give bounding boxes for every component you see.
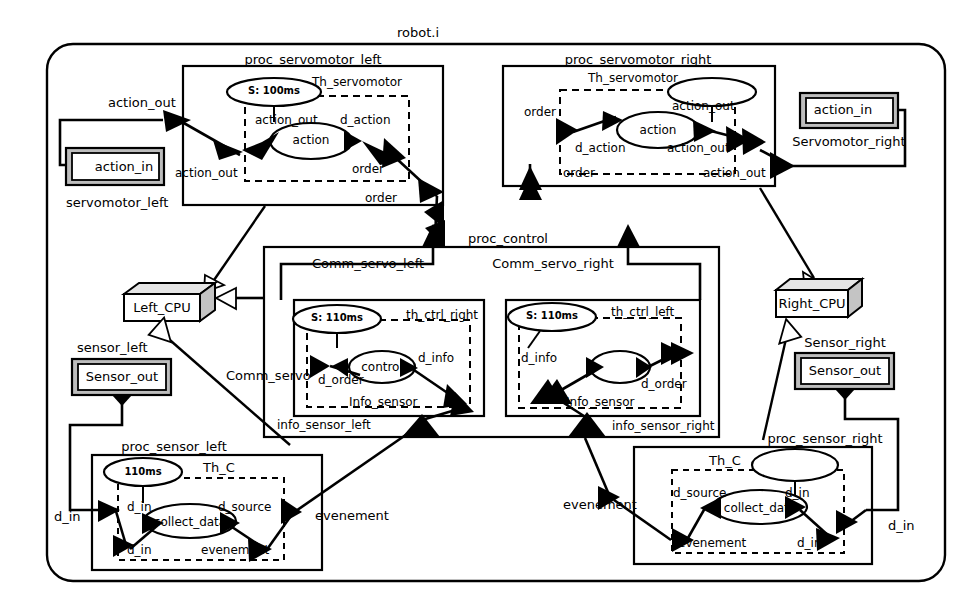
port-info-sensor-left-external: info_sensor_left xyxy=(277,419,371,431)
proc-sensor-right-title: proc_sensor_right xyxy=(767,432,882,445)
th-servomotor-right-label: Th_servomotor xyxy=(588,72,678,84)
port-action-out-inner-left: action_out xyxy=(255,114,318,126)
activity-action-left: action xyxy=(293,134,330,146)
th-c-left-label: Th_C xyxy=(203,461,235,474)
port-action-in-right: action_in xyxy=(814,103,872,116)
port-d-in-external-right: d_in xyxy=(888,519,915,532)
port-d-source-right: d_source xyxy=(673,487,726,499)
port-d-in-bottom-right: d_in xyxy=(797,537,822,549)
activity-collect-data-right: collect_data xyxy=(724,502,796,514)
proc-servomotor-right-title: proc_servomotor_right xyxy=(565,53,712,66)
device-servomotor-right-label: Servomotor_right xyxy=(792,135,905,148)
port-d-in-top-left: d_in xyxy=(127,501,152,513)
port-d-order-left: d_order xyxy=(318,374,364,386)
activity-collect-data-left: collect_data xyxy=(154,516,226,528)
comm-servo-right-label: Comm_servo_right xyxy=(492,257,614,270)
port-action-out-outer-left: action_out xyxy=(175,167,238,179)
timer-servomotor-left: S: 100ms xyxy=(248,86,300,96)
proc-servomotor-left-title: proc_servomotor_left xyxy=(244,53,381,66)
proc-servomotor-left-frame xyxy=(163,66,445,248)
port-d-in-external-left: d_in xyxy=(54,510,81,523)
proc-sensor-left-title: proc_sensor_left xyxy=(121,440,227,453)
timer-sensor-left: 110ms xyxy=(124,467,161,477)
port-evenement-outer-right: evenement xyxy=(563,498,637,511)
link-servo-right-to-right-cpu xyxy=(760,188,824,291)
device-sensor-right-label: Sensor_right xyxy=(804,336,886,349)
th-ctrl-left-label: th_ctrl_left xyxy=(611,306,674,318)
port-order-inner-left: order xyxy=(352,163,384,175)
port-action-in-left: action_in xyxy=(95,160,153,173)
link-left-cpu-comm xyxy=(216,288,264,309)
port-sensor-out-left: Sensor_out xyxy=(86,370,158,383)
th-ctrl-right-label: th_ctrl_right xyxy=(406,309,478,321)
port-order-outer-left: order xyxy=(365,192,397,204)
port-d-info-left: d_info xyxy=(418,352,454,364)
port-d-action-left: d_action xyxy=(340,114,391,126)
port-evenement-inner-left: evenement xyxy=(201,544,269,556)
port-d-source-left: d_source xyxy=(218,501,271,513)
port-evenement-outer-left: evenement xyxy=(315,509,389,522)
device-servomotor-left-label: servomotor_left xyxy=(66,196,168,209)
timer-ctrl-right: S: 110ms xyxy=(526,311,578,321)
port-action-out-mid-right: action_out xyxy=(667,142,730,154)
activity-control: control xyxy=(361,361,403,373)
port-order-outer-right: order xyxy=(563,167,595,179)
timer-ctrl-left: S: 110ms xyxy=(311,313,363,323)
port-action-out-inner-right: action_out xyxy=(672,100,735,112)
port-evenement-inner-right: evenement xyxy=(678,537,746,549)
th-servomotor-left-label: Th_servomotor xyxy=(312,76,402,88)
node-right-cpu-label: Right_CPU xyxy=(778,297,845,310)
port-info-sensor-left: Info_sensor xyxy=(349,396,417,408)
port-info-sensor-right: Info_sensor xyxy=(566,396,634,408)
diagram-canvas: robot.i proc_servomotor_left Th_servomot… xyxy=(0,0,962,608)
link-servo-left-to-left-cpu xyxy=(204,206,265,292)
port-info-sensor-right-external: info_sensor_right xyxy=(612,420,714,432)
port-sensor-out-right: Sensor_out xyxy=(809,364,881,377)
port-order-inner-right: order xyxy=(524,106,556,118)
port-d-action-right: d_action xyxy=(575,142,626,154)
activity-action-right: action xyxy=(640,124,677,136)
port-d-order-right: d_order xyxy=(641,378,687,390)
port-action-out-outer-right: action_out xyxy=(703,167,766,179)
port-d-in-bottom-left: d_in xyxy=(127,544,152,556)
port-d-info-right: d_info xyxy=(521,352,557,364)
system-title: robot.i xyxy=(397,26,439,39)
comm-servo-left-label: Comm_servo_left xyxy=(312,257,424,270)
port-d-in-top-right: d_in xyxy=(785,487,810,499)
node-left-cpu-label: Left_CPU xyxy=(133,301,190,314)
th-c-right-label: Th_C xyxy=(709,454,741,467)
proc-control-title: proc_control xyxy=(468,232,548,245)
comm-servo-label: Comm_servo xyxy=(226,369,311,382)
label-action-out-boundary-left: action_out xyxy=(108,96,176,109)
device-sensor-left-label: sensor_left xyxy=(77,341,148,354)
